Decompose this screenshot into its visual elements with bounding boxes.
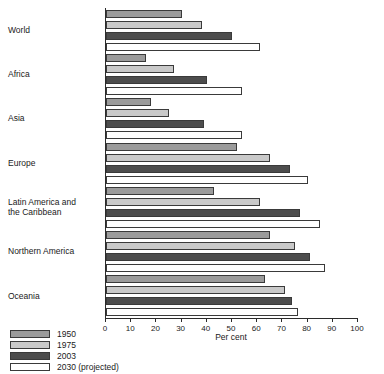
bar bbox=[106, 87, 242, 95]
bar bbox=[106, 209, 300, 217]
bar-group bbox=[106, 10, 357, 51]
x-tick-mark bbox=[155, 318, 156, 322]
category-label: Asia bbox=[8, 113, 100, 124]
category-label-line: Oceania bbox=[8, 291, 100, 302]
bar bbox=[106, 120, 204, 128]
category-label: Europe bbox=[8, 158, 100, 169]
bar bbox=[106, 109, 169, 117]
bar bbox=[106, 165, 290, 173]
bar bbox=[106, 242, 295, 250]
category-label: Northern America bbox=[8, 246, 100, 257]
legend-swatch bbox=[10, 352, 50, 360]
x-tick-mark bbox=[357, 318, 358, 322]
legend-swatch bbox=[10, 341, 50, 349]
bar bbox=[106, 76, 207, 84]
bar bbox=[106, 231, 270, 239]
category-label-line: World bbox=[8, 25, 100, 36]
x-tick-mark bbox=[281, 318, 282, 322]
category-label-line: the Caribbean bbox=[8, 207, 100, 218]
x-tick-mark bbox=[256, 318, 257, 322]
bar bbox=[106, 10, 182, 18]
bar bbox=[106, 32, 232, 40]
legend-item: 1975 bbox=[10, 340, 150, 351]
bar bbox=[106, 198, 260, 206]
bar bbox=[106, 143, 237, 151]
bar bbox=[106, 21, 202, 29]
bar bbox=[106, 176, 308, 184]
category-label-line: Latin America and bbox=[8, 197, 100, 208]
legend-item: 1950 bbox=[10, 329, 150, 340]
bar-group bbox=[106, 187, 357, 228]
chart-legend: 1950197520032030 (projected) bbox=[10, 329, 150, 373]
category-label-line: Asia bbox=[8, 113, 100, 124]
category-label: World bbox=[8, 25, 100, 36]
bar-group bbox=[106, 275, 357, 316]
bar bbox=[106, 308, 298, 316]
legend-label: 2030 (projected) bbox=[57, 362, 119, 372]
bar bbox=[106, 220, 320, 228]
category-label-line: Northern America bbox=[8, 246, 100, 257]
bar-group bbox=[106, 98, 357, 139]
x-tick-mark bbox=[105, 318, 106, 322]
x-tick-mark bbox=[181, 318, 182, 322]
plot-area: 0102030405060708090100 bbox=[105, 8, 357, 318]
bar bbox=[106, 253, 310, 261]
bar bbox=[106, 154, 270, 162]
x-tick-mark bbox=[206, 318, 207, 322]
bar bbox=[106, 286, 285, 294]
bar bbox=[106, 65, 174, 73]
bar-chart: 0102030405060708090100 WorldAfricaAsiaEu… bbox=[0, 0, 384, 374]
bar bbox=[106, 187, 214, 195]
category-label: Latin America andthe Caribbean bbox=[8, 197, 100, 218]
bar bbox=[106, 297, 292, 305]
legend-label: 2003 bbox=[57, 351, 76, 361]
category-label-line: Europe bbox=[8, 158, 100, 169]
bar bbox=[106, 98, 151, 106]
bar bbox=[106, 275, 265, 283]
category-label-line: Africa bbox=[8, 69, 100, 80]
category-label: Oceania bbox=[8, 291, 100, 302]
x-tick-mark bbox=[307, 318, 308, 322]
bar bbox=[106, 264, 325, 272]
legend-swatch bbox=[10, 330, 50, 338]
bar-group bbox=[106, 54, 357, 95]
legend-label: 1975 bbox=[57, 340, 76, 350]
legend-item: 2003 bbox=[10, 351, 150, 362]
legend-item: 2030 (projected) bbox=[10, 362, 150, 373]
legend-swatch bbox=[10, 363, 50, 371]
legend-label: 1950 bbox=[57, 329, 76, 339]
bar bbox=[106, 43, 260, 51]
bar-group bbox=[106, 143, 357, 184]
x-tick-mark bbox=[231, 318, 232, 322]
x-tick-mark bbox=[332, 318, 333, 322]
bar-group bbox=[106, 231, 357, 272]
category-label: Africa bbox=[8, 69, 100, 80]
bar bbox=[106, 54, 146, 62]
bar bbox=[106, 131, 242, 139]
x-tick-mark bbox=[130, 318, 131, 322]
